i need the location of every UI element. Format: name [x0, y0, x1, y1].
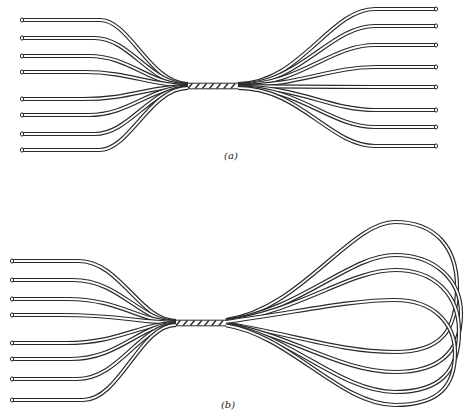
panel-a-wires	[20, 7, 437, 152]
wire-diagram	[0, 0, 473, 419]
panel-b-wires	[10, 222, 461, 405]
panel-b-label: (b)	[221, 399, 235, 410]
panel-a-label: (a)	[224, 150, 238, 161]
